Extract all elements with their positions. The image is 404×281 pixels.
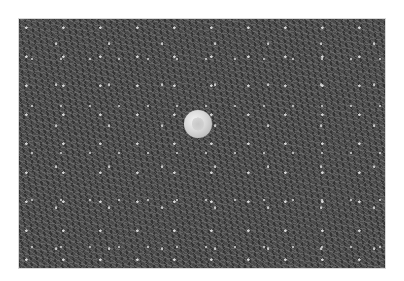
coin-scale-reference bbox=[184, 110, 212, 138]
turfgrass-photo bbox=[18, 18, 386, 269]
coin-relief bbox=[192, 117, 204, 131]
